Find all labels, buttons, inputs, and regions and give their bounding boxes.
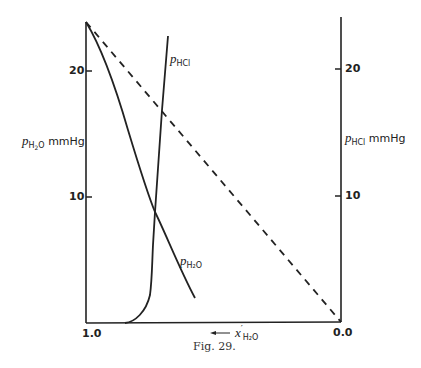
arrowhead-icon <box>210 331 216 335</box>
left-axis-label: pH2O mmHg <box>22 134 85 147</box>
curve-h2o-sub: H₂O <box>187 261 203 270</box>
x-axis-x: x <box>235 325 241 340</box>
left-axis-sub: H2O <box>29 141 45 150</box>
left-tick-label-20: 20 <box>69 65 84 76</box>
right-tick-label-20: 20 <box>345 63 360 74</box>
curve-label-p-hcl: pHCl <box>170 52 190 65</box>
chart-canvas <box>0 0 421 368</box>
right-axis-sub: HCl <box>352 138 366 147</box>
curve-h2o-p: p <box>180 253 187 268</box>
x-axis <box>86 322 341 323</box>
x-axis-label: x′H₂O <box>235 326 258 339</box>
x-tick-label-1: 1.0 <box>82 328 102 339</box>
left-axis-p: p <box>22 133 29 148</box>
right-tick-label-10: 10 <box>345 190 360 201</box>
figure-caption: Fig. 29. <box>193 340 236 353</box>
right-axis-p: p <box>345 130 352 145</box>
left-axis-unit: mmHg <box>48 135 85 148</box>
curve-hcl-p: p <box>170 51 177 66</box>
dashed-total-line <box>86 22 341 322</box>
x-tick-label-0: 0.0 <box>333 327 353 338</box>
right-axis-label: pHCl mmHg <box>345 131 406 144</box>
x-axis-sub: H₂O <box>243 333 259 342</box>
left-tick-label-10: 10 <box>69 191 84 202</box>
right-axis-unit: mmHg <box>369 132 406 145</box>
curve-hcl-sub: HCl <box>177 59 191 68</box>
curve-p-hcl <box>125 36 168 323</box>
curve-label-p-h2o: pH₂O <box>180 254 202 267</box>
